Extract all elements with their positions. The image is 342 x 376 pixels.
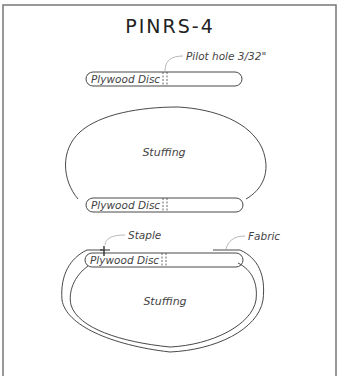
diagram-canvas: PINRS-4 Plywood Disc Pilot hole 3/32" St… <box>0 0 342 376</box>
pilot-hole-leader <box>165 56 183 71</box>
figure-disc-pilot-hole: Plywood Disc Pilot hole 3/32" <box>86 50 266 86</box>
staple-label: Staple <box>128 229 161 241</box>
diagram-title: PINRS-4 <box>125 15 214 37</box>
fabric-leader <box>226 236 245 249</box>
plywood-disc-label: Plywood Disc <box>90 254 159 266</box>
figure-stuffing-on-disc: Stuffing Plywood Disc <box>66 107 267 212</box>
figure-fabric-wrapped: Plywood Disc Staple Fabric Stuffing <box>62 229 281 352</box>
stuffing-label: Stuffing <box>143 295 186 308</box>
fabric-label: Fabric <box>248 230 280 242</box>
staple-leader <box>105 235 125 245</box>
drawing-frame <box>3 5 336 376</box>
plywood-disc-label: Plywood Disc <box>91 199 160 211</box>
plywood-disc-label: Plywood Disc <box>91 73 160 85</box>
pilot-hole-callout: Pilot hole 3/32" <box>186 50 266 62</box>
stuffing-label: Stuffing <box>142 146 185 159</box>
